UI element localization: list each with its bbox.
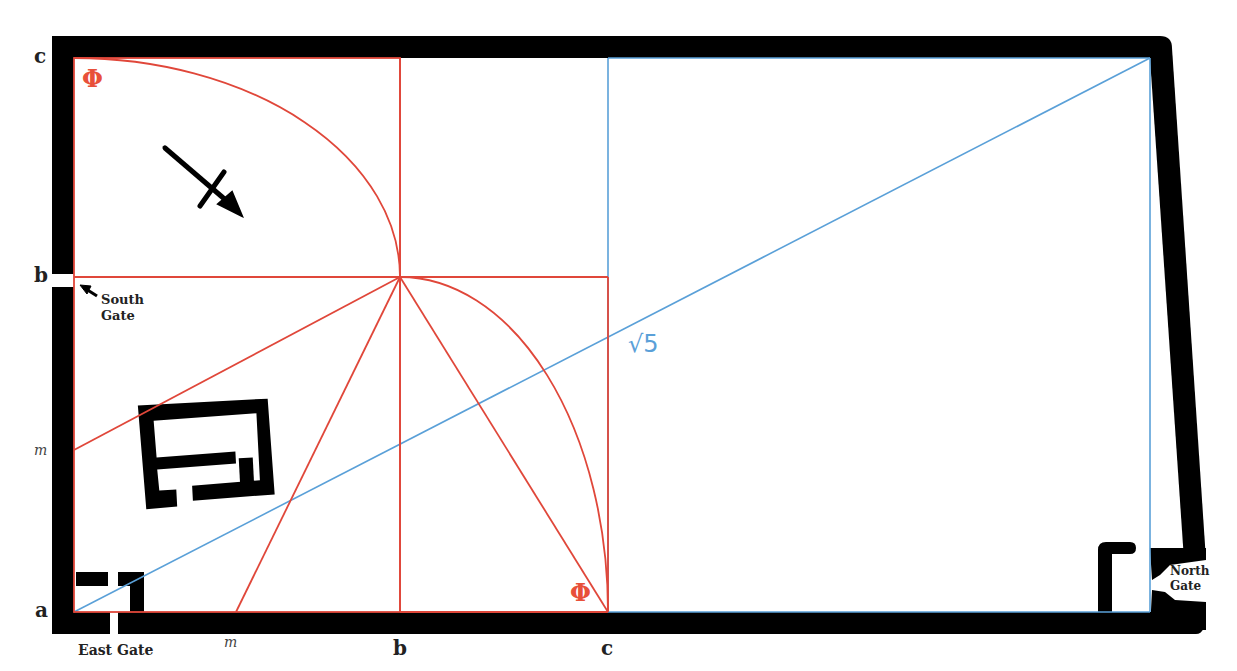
building-footprint [138, 399, 275, 510]
label-bottom-m: m [224, 634, 237, 650]
north-gate-line1: North [1170, 564, 1210, 579]
golden-ratio-construction [74, 58, 608, 612]
compass-arrow-icon [165, 148, 242, 216]
phi-symbol-bottom: Φ [570, 578, 591, 607]
label-left-m: m [34, 442, 47, 458]
sqrt5-label: √5 [628, 330, 659, 358]
south-gate-line1: South [101, 292, 144, 308]
label-south-gate: South Gate [101, 292, 144, 324]
site-plan-diagram [0, 0, 1237, 671]
arrow-pointer-icon [80, 285, 97, 296]
label-bottom-b: b [393, 636, 407, 660]
south-gate-line2: Gate [101, 308, 144, 324]
north-gate-line2: Gate [1170, 579, 1210, 594]
label-left-c: c [34, 44, 46, 68]
label-left-a: a [35, 598, 48, 622]
phi-symbol-top: Φ [82, 64, 103, 93]
label-left-b: b [34, 263, 48, 287]
label-east-gate: East Gate [78, 642, 153, 658]
root5-construction [74, 58, 1150, 612]
label-bottom-c: c [601, 636, 613, 660]
label-north-gate: North Gate [1170, 564, 1210, 594]
